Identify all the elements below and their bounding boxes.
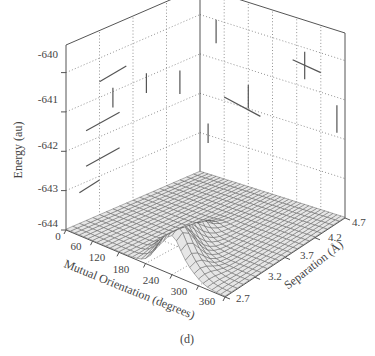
x-tick-label: 180 bbox=[113, 263, 130, 275]
surface-chart: -640 -641 -642 -643 -644 Energy (au) 0 6… bbox=[0, 0, 375, 356]
x-tick-label: 0 bbox=[55, 230, 61, 242]
z-tick-label: -641 bbox=[38, 93, 58, 105]
y-tick-label: 3.2 bbox=[268, 270, 282, 282]
z-tick-label: -644 bbox=[38, 217, 59, 229]
z-axis-title: Energy (au) bbox=[11, 122, 25, 179]
z-tick-label: -640 bbox=[38, 48, 59, 60]
z-tick-label: -643 bbox=[38, 182, 59, 194]
x-tick-label: 360 bbox=[199, 295, 216, 307]
y-tick-label: 2.7 bbox=[236, 292, 250, 304]
panel-caption: (d) bbox=[180, 332, 194, 346]
x-tick-label: 60 bbox=[71, 240, 83, 252]
z-tick-label: -642 bbox=[38, 139, 58, 151]
x-tick-label: 300 bbox=[171, 285, 188, 297]
x-tick-label: 120 bbox=[89, 251, 106, 263]
y-tick-label: 4.7 bbox=[352, 216, 366, 228]
x-tick-label: 240 bbox=[143, 274, 160, 286]
